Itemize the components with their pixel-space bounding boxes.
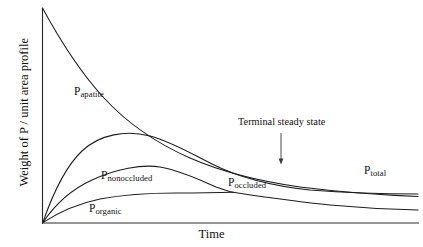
curve-label-p-total: Ptotal — [364, 165, 386, 177]
x-axis-title: Time — [0, 228, 423, 241]
terminal-steady-state-label: Terminal steady state — [238, 117, 325, 127]
curve-p-apatite — [43, 8, 419, 197]
curve-label-p-organic-subscript: organic — [95, 206, 121, 216]
curve-label-p-nonoccluded: Pnonoccluded — [101, 170, 152, 182]
curve-label-p-total-subscript: total — [370, 168, 386, 178]
chart-plot-area — [0, 0, 423, 247]
curve-label-p-occluded: Poccluded — [228, 177, 266, 189]
curve-label-p-organic: Porganic — [89, 203, 122, 215]
curve-p-organic — [43, 192, 233, 222]
curve-label-p-apatite-subscript: apatite — [80, 89, 104, 99]
curve-label-p-apatite: Papatite — [74, 86, 104, 98]
curve-label-p-occluded-subscript: occluded — [234, 180, 266, 190]
curve-label-p-nonoccluded-subscript: nonoccluded — [107, 173, 152, 183]
terminal-steady-state-arrow-head — [279, 159, 284, 165]
y-axis-title: Weight of P / unit area profile — [18, 2, 31, 222]
phosphorus-weathering-chart: Papatite Pnonoccluded Poccluded Porganic… — [0, 0, 423, 247]
